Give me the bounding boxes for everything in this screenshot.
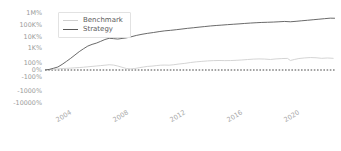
legend-label-benchmark: Benchmark [83,17,123,24]
y-tick-label: -100% [21,74,42,80]
x-tick-label: 2020 [283,109,301,123]
legend: Benchmark Strategy [58,12,131,38]
y-tick-label: 100K% [20,22,42,28]
x-tick-label: 2008 [112,109,130,123]
x-tick-label: 2004 [55,109,73,123]
legend-item-strategy[interactable]: Strategy [63,25,123,34]
y-tick-label: 1M% [26,10,42,16]
y-tick-label: 1K% [28,45,42,51]
y-tick-label: -10000% [13,100,42,106]
x-tick-label: 2012 [169,109,187,123]
series-line-benchmark [45,58,333,70]
y-tick-label: -1000% [17,88,42,94]
legend-label-strategy: Strategy [83,26,113,33]
legend-item-benchmark[interactable]: Benchmark [63,16,123,25]
cumulative-returns-chart: 1M% 100K% 10K% 1K% 100% 0% -100% -1000% … [0,0,341,151]
y-tick-label: 10K% [24,34,42,40]
x-tick-label: 2016 [226,109,244,123]
y-axis: 1M% 100K% 10K% 1K% 100% 0% -100% -1000% … [0,0,42,151]
x-axis: 2004 2008 2012 2016 2020 [45,112,336,144]
legend-swatch-strategy [63,29,78,30]
legend-swatch-benchmark [63,20,78,21]
